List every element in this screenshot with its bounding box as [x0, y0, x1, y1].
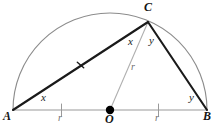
angle-label-at-c-left: x — [128, 36, 133, 47]
radius-label-oc: r — [131, 62, 135, 72]
angle-label-at-b: y — [189, 92, 194, 103]
geometry-figure: A B C O x y x y r r r — [0, 0, 222, 129]
radius-label-ao: r — [58, 113, 62, 123]
chord-segment-cb — [148, 22, 207, 110]
vertex-label-a: A — [3, 110, 11, 122]
geometry-canvas — [0, 0, 222, 129]
vertex-label-c: C — [144, 1, 152, 13]
angle-label-at-a: x — [41, 92, 46, 103]
angle-label-at-c-right: y — [149, 35, 154, 46]
vertex-label-o: O — [105, 113, 114, 125]
radius-label-ob: r — [155, 113, 159, 123]
vertex-label-b: B — [203, 110, 211, 122]
